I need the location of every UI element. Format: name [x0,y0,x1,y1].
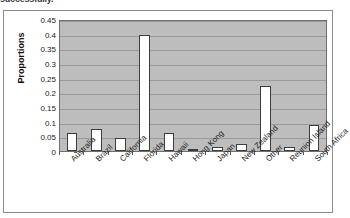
y-tick-label: 0.45 [22,16,56,25]
y-tick-label: 0.3 [22,60,56,69]
bar-slot [84,21,108,151]
y-tick-label: 0.35 [22,45,56,54]
bar-slot [181,21,205,151]
chart-figure-frame: Proportions 00.050.10.150.20.250.30.350.… [3,10,333,213]
y-tick-label: 0.15 [22,104,56,113]
x-axis-tick-labels: AustraliaBrazilCaliforniaFloridaHawaiiHo… [59,152,327,210]
bars-layer [60,21,326,151]
bar-slot [278,21,302,151]
bar[interactable] [164,133,175,151]
bar-slot [229,21,253,151]
y-tick-label: 0 [22,148,56,157]
bar-slot [108,21,132,151]
clipped-caption-text: successfully. [0,0,337,5]
bar-slot [133,21,157,151]
y-axis-tick-labels: 00.050.10.150.20.250.30.350.40.45 [22,15,56,157]
bar-slot [157,21,181,151]
plot-area [59,20,327,152]
x-tick-mark [59,152,60,155]
y-tick-label: 0.4 [22,30,56,39]
y-tick-label: 0.25 [22,74,56,83]
y-tick-label: 0.05 [22,133,56,142]
y-tick-label: 0.2 [22,89,56,98]
y-tick-label: 0.1 [22,118,56,127]
bar-slot [60,21,84,151]
clipped-caption-strip: successfully. [0,0,337,5]
